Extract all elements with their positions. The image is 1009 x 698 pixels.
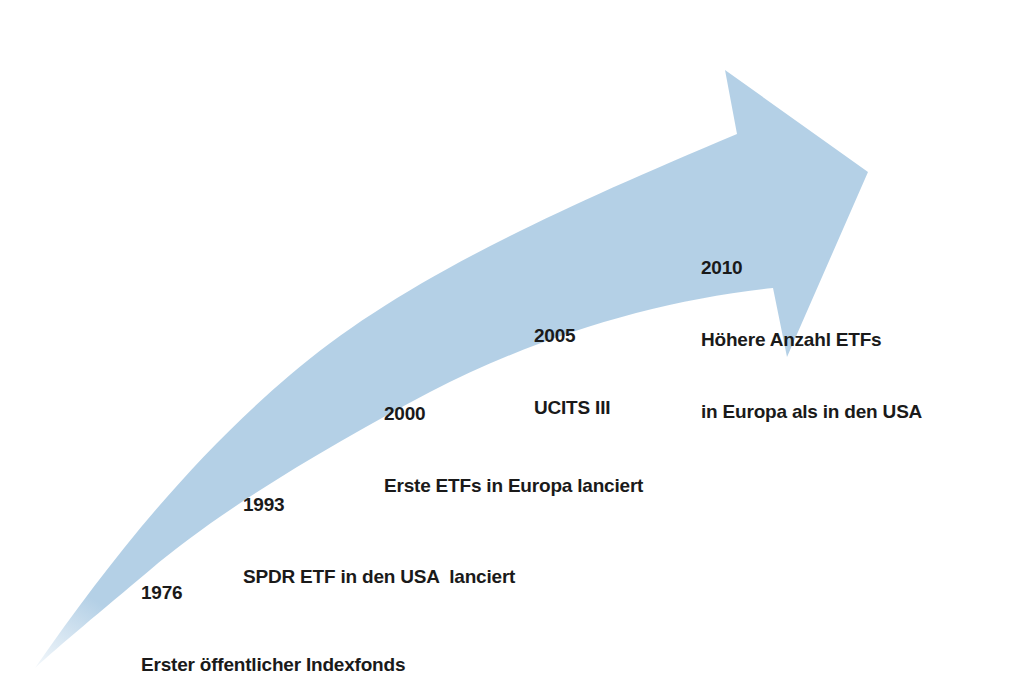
milestone-2005: 2005 UCITS III <box>534 276 610 444</box>
milestone-description: UCITS III <box>534 396 610 420</box>
milestone-description-line-1: Höhere Anzahl ETFs <box>701 328 922 352</box>
milestone-year: 2010 <box>701 256 922 280</box>
milestone-2010: 2010 Höhere Anzahl ETFs in Europa als in… <box>701 208 922 448</box>
milestone-description-line-2: in Europa als in den USA <box>701 400 922 424</box>
milestone-description: Erste ETFs in Europa lanciert <box>384 474 643 498</box>
milestone-year: 2005 <box>534 324 610 348</box>
milestone-description: SPDR ETF in den USA lanciert <box>243 565 515 589</box>
milestone-description: Erster öffentlicher Indexfonds <box>141 653 405 677</box>
